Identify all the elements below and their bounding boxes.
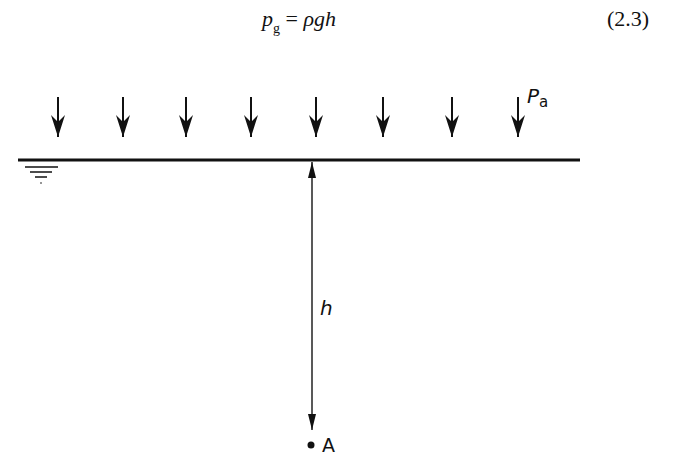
down-arrow-icon bbox=[376, 97, 390, 137]
atmospheric-pressure-arrows bbox=[51, 97, 525, 137]
down-arrow-icon bbox=[445, 97, 459, 137]
point-a-dot-icon bbox=[308, 442, 315, 449]
down-arrow-icon bbox=[51, 97, 65, 137]
down-arrowhead-icon bbox=[308, 414, 316, 430]
down-arrow-icon bbox=[244, 97, 258, 137]
water-surface-symbol-icon bbox=[25, 167, 58, 184]
point-label: A bbox=[322, 434, 335, 455]
down-arrow-icon bbox=[309, 97, 323, 137]
hydrostatic-pressure-diagram: Pa h A bbox=[0, 0, 680, 455]
up-arrowhead-icon bbox=[308, 162, 316, 178]
pressure-label: Pa bbox=[527, 84, 548, 111]
depth-label: h bbox=[320, 296, 333, 320]
down-arrow-icon bbox=[179, 97, 193, 137]
down-arrow-icon bbox=[511, 97, 525, 137]
depth-dimension bbox=[308, 162, 316, 430]
down-arrow-icon bbox=[116, 97, 130, 137]
